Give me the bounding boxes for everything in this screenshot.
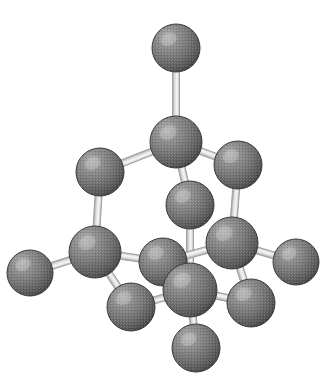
upper-center-atom bbox=[150, 116, 202, 168]
mid-right-atom bbox=[206, 217, 258, 269]
molecular-model-canvas bbox=[0, 0, 333, 384]
front-center-atom bbox=[163, 263, 217, 317]
lower-right-atom bbox=[227, 279, 275, 327]
top-apex-atom bbox=[152, 24, 200, 72]
upper-left-atom bbox=[76, 148, 124, 196]
inner-center-atom bbox=[166, 181, 214, 229]
left-terminal-atom bbox=[7, 250, 53, 296]
molecular-model-figure bbox=[0, 0, 333, 384]
right-terminal-atom bbox=[273, 239, 319, 285]
bottom-apex-atom bbox=[172, 324, 220, 372]
lower-left-atom bbox=[107, 283, 155, 331]
mid-left-atom bbox=[69, 226, 121, 278]
upper-right-atom bbox=[214, 141, 262, 189]
